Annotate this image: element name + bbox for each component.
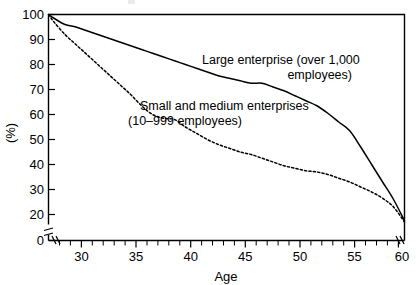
y-axis-title: (%) bbox=[3, 123, 18, 143]
sme-label: Small and medium enterprises (10–999 emp… bbox=[128, 99, 309, 128]
y-tick-label-80: 80 bbox=[30, 57, 44, 72]
x-axis-tick-labels: 30 35 40 45 50 55 60 bbox=[74, 249, 409, 264]
y-axis-ticks bbox=[49, 15, 56, 241]
x-tick-label-35: 35 bbox=[129, 249, 143, 264]
x-tick-label-45: 45 bbox=[238, 249, 252, 264]
x-axis-minor-ticks bbox=[60, 241, 388, 246]
x-axis-major-ticks bbox=[81, 241, 398, 248]
x-tick-label-30: 30 bbox=[74, 249, 88, 264]
y-tick-label-90: 90 bbox=[30, 32, 44, 47]
y-tick-label-100: 100 bbox=[22, 7, 44, 22]
sme-label-line1: Small and medium enterprises bbox=[140, 99, 309, 113]
y-tick-label-40: 40 bbox=[30, 157, 44, 172]
y-tick-label-0: 0 bbox=[37, 233, 44, 248]
y-tick-label-70: 70 bbox=[30, 82, 44, 97]
sme-label-line2: (10–999 employees) bbox=[128, 114, 242, 128]
scan-artifact bbox=[128, 0, 135, 4]
x-axis-title: Age bbox=[214, 269, 237, 284]
line-chart: 100 90 80 70 60 50 40 30 20 0 bbox=[0, 0, 419, 285]
y-tick-label-50: 50 bbox=[30, 132, 44, 147]
x-tick-label-60: 60 bbox=[395, 249, 409, 264]
y-tick-label-20: 20 bbox=[30, 207, 44, 222]
chart-figure: 100 90 80 70 60 50 40 30 20 0 bbox=[0, 0, 419, 285]
y-axis-break-icon bbox=[44, 228, 53, 236]
y-axis-tick-labels: 100 90 80 70 60 50 40 30 20 0 bbox=[22, 7, 44, 248]
large-enterprise-label-line2: employees) bbox=[287, 68, 352, 82]
y-tick-label-30: 30 bbox=[30, 182, 44, 197]
x-tick-label-55: 55 bbox=[347, 249, 361, 264]
x-tick-label-50: 50 bbox=[293, 249, 307, 264]
large-enterprise-label-line1: Large enterprise (over 1,000 bbox=[202, 53, 360, 67]
x-tick-label-40: 40 bbox=[183, 249, 197, 264]
y-tick-label-60: 60 bbox=[30, 107, 44, 122]
